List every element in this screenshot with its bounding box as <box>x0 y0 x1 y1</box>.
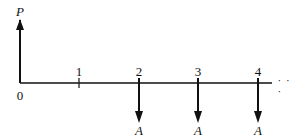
label-period-4: 4 <box>255 65 262 78</box>
label-A-4: A <box>254 124 262 137</box>
label-A-2: A <box>135 124 143 137</box>
label-period-3: 3 <box>195 65 202 78</box>
continuation-dots: · · · <box>278 75 297 97</box>
label-period-2: 2 <box>136 65 143 78</box>
label-A-3: A <box>194 124 202 137</box>
label-period-1: 1 <box>76 65 83 78</box>
label-origin: 0 <box>17 89 24 102</box>
label-P: P <box>16 5 24 18</box>
